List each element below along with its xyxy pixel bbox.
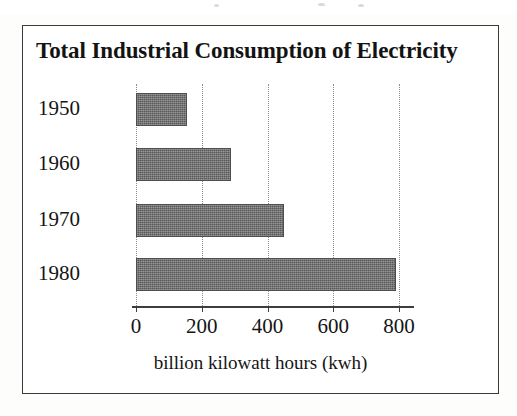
gridline-800 xyxy=(399,84,400,306)
bar-1980 xyxy=(136,258,396,291)
plot-area xyxy=(136,84,399,306)
x-axis-title: billion kilowatt hours (kwh) xyxy=(22,352,499,374)
x-tick-600 xyxy=(333,306,334,312)
chart-page: Total Industrial Consumption of Electric… xyxy=(0,0,517,416)
bar-1960 xyxy=(136,148,231,181)
y-label-1980: 1980 xyxy=(38,261,128,286)
y-label-1950: 1950 xyxy=(38,96,128,121)
x-axis-line xyxy=(132,306,414,308)
x-tick-800 xyxy=(399,306,400,312)
x-tick-label-0: 0 xyxy=(101,314,171,339)
x-tick-label-400: 400 xyxy=(233,314,303,339)
chart-title: Total Industrial Consumption of Electric… xyxy=(36,38,486,64)
y-label-1960: 1960 xyxy=(38,151,128,176)
bar-1970 xyxy=(136,204,284,237)
y-label-1970: 1970 xyxy=(38,207,128,232)
x-tick-400 xyxy=(268,306,269,312)
x-tick-label-800: 800 xyxy=(364,314,434,339)
x-tick-label-200: 200 xyxy=(167,314,237,339)
bar-1950 xyxy=(136,93,187,126)
scan-artifact-band xyxy=(0,0,517,14)
x-tick-0 xyxy=(136,306,137,312)
x-tick-label-600: 600 xyxy=(298,314,368,339)
x-tick-200 xyxy=(202,306,203,312)
